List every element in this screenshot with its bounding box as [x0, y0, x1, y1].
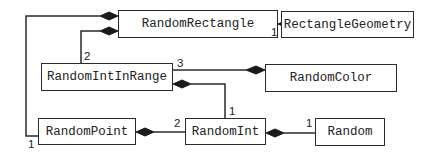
composition-diamond-icon: [100, 12, 118, 20]
class-random-int[interactable]: RandomInt: [185, 118, 266, 145]
class-random[interactable]: Random: [315, 118, 385, 146]
multiplicity-label: 1: [271, 27, 277, 39]
class-name: RandomColor: [290, 71, 373, 85]
composition-diamond-icon: [246, 66, 265, 74]
multiplicity-label: 1: [28, 139, 34, 151]
multiplicity-label: 1: [306, 118, 312, 130]
composition-diamond-icon: [100, 27, 118, 35]
class-name: RectangleGeometry: [284, 18, 412, 32]
multiplicity-label: 2: [84, 51, 90, 63]
class-name: RandomInt: [192, 125, 260, 139]
connector-intinrange-int: [191, 84, 225, 118]
class-name: RandomRectangle: [142, 17, 255, 31]
class-random-rectangle[interactable]: RandomRectangle: [118, 10, 278, 38]
uml-diagram: RandomRectangle RectangleGeometry Random…: [0, 0, 430, 155]
class-random-int-in-range[interactable]: RandomIntInRange: [41, 63, 173, 91]
class-name: RandomPoint: [46, 125, 129, 139]
composition-diamond-icon: [266, 129, 284, 137]
class-name: Random: [327, 125, 372, 139]
class-random-color[interactable]: RandomColor: [265, 64, 397, 92]
class-rectangle-geometry[interactable]: RectangleGeometry: [281, 11, 414, 38]
composition-diamond-icon: [136, 128, 154, 136]
composition-diamond-icon: [173, 80, 191, 88]
class-random-point[interactable]: RandomPoint: [38, 118, 136, 145]
multiplicity-label: 1: [229, 106, 235, 118]
multiplicity-label: 3: [177, 58, 183, 70]
class-name: RandomIntInRange: [47, 70, 167, 84]
multiplicity-label: 2: [174, 118, 180, 130]
